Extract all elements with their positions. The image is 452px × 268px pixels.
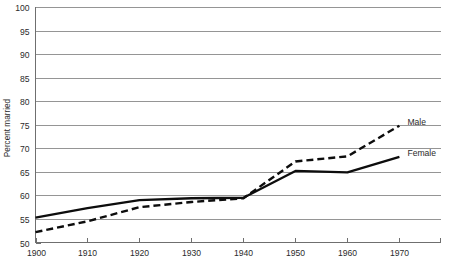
y-axis-tick-label: 90 (20, 50, 30, 60)
series-label-male: Male (407, 117, 426, 127)
x-axis-tick-label: 1910 (78, 248, 97, 258)
chart-container: 50556065707580859095100 1900191019201930… (0, 0, 452, 268)
y-axis-tick-label: 100 (15, 3, 30, 13)
y-axis-tick-label: 80 (20, 97, 30, 107)
x-axis-tick-label: 1900 (27, 248, 46, 258)
series-label-female: Female (407, 148, 436, 158)
series-line-female (36, 157, 400, 218)
series-line-male (36, 126, 400, 232)
y-axis-tick-label: 55 (20, 215, 30, 225)
y-axis-tick-label: 85 (20, 74, 30, 84)
y-axis-tick-label: 95 (20, 27, 30, 37)
x-axis-tick-labels: 19001910192019301940195019601970 (27, 248, 409, 258)
x-axis-tick-label: 1970 (390, 248, 409, 258)
x-axis-tick-label: 1940 (234, 248, 253, 258)
y-axis-tick-labels: 50556065707580859095100 (15, 3, 30, 249)
x-axis-tick-label: 1960 (338, 248, 357, 258)
x-axis-tick-label: 1950 (286, 248, 305, 258)
x-axis-tick-label: 1920 (130, 248, 149, 258)
y-axis-tick-label: 65 (20, 168, 30, 178)
y-axis-tick-label: 70 (20, 144, 30, 154)
x-axis-tick-marks (37, 238, 441, 243)
x-axis-tick-label: 1930 (182, 248, 201, 258)
y-axis-tick-label: 75 (20, 121, 30, 131)
line-chart: 50556065707580859095100 1900191019201930… (0, 0, 452, 268)
y-axis-title: Percent married (3, 98, 12, 157)
gridlines (36, 8, 442, 244)
y-axis-tick-label: 60 (20, 191, 30, 201)
